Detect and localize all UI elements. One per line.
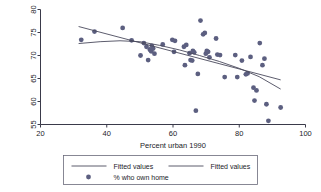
y-tick-label: 55 bbox=[29, 120, 38, 128]
scatter-point bbox=[218, 53, 223, 58]
scatter-point bbox=[240, 58, 245, 63]
legend-marker-swatch bbox=[86, 175, 91, 180]
scatter-point bbox=[206, 49, 211, 54]
scatter-point bbox=[152, 51, 157, 56]
fitted-line-1 bbox=[79, 27, 281, 80]
scatter-point bbox=[146, 58, 151, 63]
scatter-point bbox=[193, 108, 198, 113]
x-tick-label: 60 bbox=[169, 129, 177, 138]
x-tick-label: 20 bbox=[36, 129, 44, 138]
scatter-point bbox=[264, 102, 269, 107]
scatter-point bbox=[120, 26, 125, 31]
scatter-plot-figure: 55606570758020406080100Percent urban 199… bbox=[0, 0, 321, 192]
scatter-point bbox=[254, 88, 259, 93]
scatter-point bbox=[222, 75, 227, 80]
scatter-point bbox=[138, 53, 143, 58]
legend-label-1: Fitted values bbox=[114, 163, 154, 170]
legend-label-3: % who own home bbox=[114, 174, 169, 181]
legend-label-2: Fitted values bbox=[211, 163, 251, 170]
scatter-point bbox=[183, 63, 188, 68]
x-tick-label: 100 bbox=[299, 129, 312, 138]
scatter-point bbox=[173, 38, 178, 43]
y-tick-label: 60 bbox=[29, 97, 38, 105]
x-axis-title: Percent urban 1990 bbox=[140, 141, 206, 150]
scatter-series--who-own-home bbox=[79, 18, 283, 123]
y-tick-label: 65 bbox=[29, 74, 38, 82]
scatter-point bbox=[202, 31, 207, 36]
scatter-point bbox=[278, 105, 283, 110]
scatter-point bbox=[184, 43, 189, 48]
scatter-point bbox=[235, 75, 240, 80]
scatter-point bbox=[195, 72, 200, 77]
y-tick-label: 80 bbox=[29, 5, 38, 13]
fitted-line-2 bbox=[79, 41, 281, 89]
scatter-point bbox=[262, 56, 267, 61]
scatter-point bbox=[252, 98, 257, 103]
scatter-point bbox=[257, 41, 262, 46]
scatter-point bbox=[198, 18, 203, 23]
scatter-point bbox=[233, 53, 238, 58]
scatter-point bbox=[260, 63, 265, 68]
y-tick-label: 75 bbox=[29, 28, 38, 36]
scatter-point bbox=[79, 37, 84, 42]
chart-canvas: 55606570758020406080100Percent urban 199… bbox=[0, 0, 321, 192]
x-tick-label: 40 bbox=[103, 129, 111, 138]
scatter-point bbox=[248, 54, 253, 59]
scatter-point bbox=[266, 118, 271, 123]
y-tick-label: 70 bbox=[29, 51, 38, 59]
scatter-point bbox=[214, 36, 219, 41]
scatter-point bbox=[190, 58, 195, 63]
x-tick-label: 80 bbox=[235, 129, 243, 138]
